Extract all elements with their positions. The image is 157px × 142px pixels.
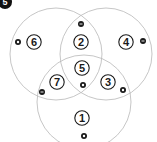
step-badge-label: 5 [2, 0, 7, 7]
step-badge: 5 [0, 0, 12, 9]
venn-regions: 1234567 [15, 21, 146, 139]
minus-marker-icon [78, 21, 84, 27]
region-number: 4 [123, 36, 130, 48]
minus-marker-icon [140, 38, 146, 44]
ring-marker-icon [120, 87, 126, 93]
region-4: 4 [119, 35, 146, 49]
region-number: 7 [54, 76, 60, 88]
region-6: 6 [15, 35, 41, 49]
region-3: 3 [101, 75, 126, 93]
ring-marker-icon [81, 133, 87, 139]
ring-marker-icon [15, 39, 21, 45]
ring-marker-icon [80, 82, 86, 88]
venn-diagram: 1234567 5 [0, 0, 157, 142]
region-number: 2 [78, 36, 84, 48]
region-number: 6 [31, 36, 37, 48]
minus-marker-icon [39, 89, 45, 95]
region-1: 1 [75, 111, 89, 139]
region-7: 7 [39, 75, 64, 95]
region-number: 5 [79, 62, 85, 74]
region-number: 1 [79, 112, 85, 124]
region-5: 5 [75, 61, 89, 88]
region-2: 2 [74, 21, 88, 49]
region-number: 3 [105, 76, 111, 88]
